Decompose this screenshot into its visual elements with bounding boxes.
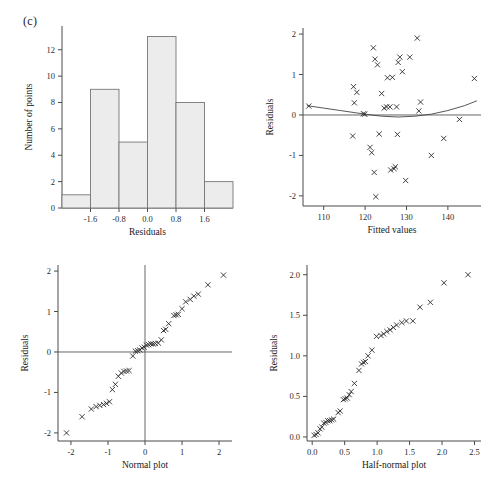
y-tick-label: 4: [51, 150, 56, 160]
histogram-bar: [119, 142, 148, 208]
x-tick-label: 2: [217, 447, 221, 457]
histogram-bar: [176, 102, 205, 208]
data-point-marker: [205, 282, 210, 287]
data-point-marker: [352, 100, 357, 105]
data-point-marker: [394, 322, 399, 327]
x-tick-label: 1.6: [199, 214, 210, 224]
data-point-marker: [390, 75, 395, 80]
data-point-marker: [166, 321, 171, 326]
y-tick-label: 1.0: [289, 351, 300, 361]
y-tick-label: 12: [47, 45, 56, 55]
x-tick-label: 0: [143, 447, 147, 457]
x-tick-label: 1.5: [404, 447, 415, 457]
y-tick-label: 6: [51, 124, 55, 134]
histogram-bar: [205, 182, 234, 208]
data-point-marker: [361, 360, 366, 365]
x-axis-title: Fitted values: [368, 225, 417, 235]
data-point-marker: [372, 57, 377, 62]
normal-plot-chart: -2-1012-2-1012Normal plotResiduals: [0, 243, 248, 497]
data-point-marker: [457, 117, 462, 122]
data-point-marker: [393, 164, 398, 169]
y-tick-label: 0: [47, 347, 51, 357]
x-tick-label: 130: [400, 212, 413, 222]
y-axis-title: Residuals: [269, 334, 279, 371]
data-point-marker: [441, 136, 446, 141]
y-axis-title: Residuals: [265, 98, 275, 135]
data-point-marker: [159, 337, 164, 342]
histogram-chart: -1.6-0.80.00.81.6024681012ResidualsNumbe…: [0, 0, 248, 248]
data-point-marker: [375, 62, 380, 67]
data-point-marker: [404, 318, 409, 323]
data-point-marker: [329, 417, 334, 422]
x-axis-title: Normal plot: [122, 460, 169, 470]
panel-half-normal-plot: 0.00.51.01.52.02.50.00.51.01.52.0Half-no…: [245, 243, 493, 497]
x-tick-label: -1: [104, 447, 111, 457]
x-tick-label: 1: [180, 447, 184, 457]
data-point-marker: [418, 99, 423, 104]
data-point-marker: [354, 90, 359, 95]
data-point-marker: [417, 305, 422, 310]
data-point-marker: [365, 353, 370, 358]
scatter-points: [306, 36, 477, 200]
x-tick-label: 0.5: [339, 447, 350, 457]
data-point-marker: [465, 272, 470, 277]
data-point-marker: [163, 327, 168, 332]
x-tick-label: 140: [442, 212, 455, 222]
histogram-bars: [62, 37, 233, 208]
data-point-marker: [441, 280, 446, 285]
y-tick-label: -1: [289, 150, 296, 160]
figure-panel-c: (c) -1.6-0.80.00.81.6024681012ResidualsN…: [0, 0, 493, 497]
data-point-marker: [399, 320, 404, 325]
y-tick-label: -2: [289, 191, 296, 201]
y-tick-label: 0: [51, 203, 55, 213]
y-axis-title: Residuals: [20, 334, 30, 371]
data-point-marker: [369, 348, 374, 353]
data-point-marker: [94, 404, 99, 409]
x-tick-label: 0.0: [142, 214, 153, 224]
data-point-marker: [371, 45, 376, 50]
panel-histogram: -1.6-0.80.00.81.6024681012ResidualsNumbe…: [0, 0, 248, 248]
data-point-marker: [130, 353, 135, 358]
data-point-marker: [113, 382, 118, 387]
y-tick-label: 1: [292, 70, 296, 80]
data-point-marker: [372, 170, 377, 175]
data-point-marker: [391, 325, 396, 330]
data-point-marker: [374, 334, 379, 339]
data-point-marker: [221, 273, 226, 278]
data-point-marker: [373, 194, 378, 199]
data-point-marker: [356, 368, 361, 373]
y-tick-label: 2: [292, 29, 296, 39]
data-point-marker: [472, 76, 477, 81]
data-point-marker: [395, 132, 400, 137]
data-point-marker: [381, 331, 386, 336]
x-axis-title: Half-normal plot: [362, 460, 426, 470]
data-point-marker: [350, 133, 355, 138]
panel-residuals-vs-fitted: 110120130140-2-1012Fitted valuesResidual…: [245, 0, 493, 248]
y-tick-label: 1.5: [289, 310, 300, 320]
x-tick-label: 110: [317, 212, 329, 222]
y-tick-label: 1: [47, 307, 51, 317]
data-point-marker: [415, 36, 420, 41]
data-point-marker: [97, 403, 102, 408]
data-point-marker: [410, 318, 415, 323]
data-point-marker: [416, 108, 421, 113]
data-point-marker: [369, 150, 374, 155]
data-point-marker: [394, 104, 399, 109]
data-point-marker: [367, 145, 372, 150]
half-normal-plot-chart: 0.00.51.01.52.02.50.00.51.01.52.0Half-no…: [245, 243, 493, 497]
histogram-bar: [62, 195, 91, 208]
data-point-marker: [179, 306, 184, 311]
y-axis-title: Number of points: [24, 83, 34, 150]
x-tick-label: -0.8: [112, 214, 125, 224]
data-point-marker: [387, 104, 392, 109]
x-axis-title: Residuals: [129, 227, 166, 237]
data-point-marker: [352, 381, 357, 386]
x-tick-label: 2.0: [437, 447, 448, 457]
y-tick-label: 0.5: [289, 391, 300, 401]
data-point-marker: [385, 75, 390, 80]
x-tick-label: 120: [359, 212, 372, 222]
data-point-marker: [403, 178, 408, 183]
data-point-marker: [377, 131, 382, 136]
data-point-marker: [379, 91, 384, 96]
y-tick-label: 2: [51, 177, 55, 187]
